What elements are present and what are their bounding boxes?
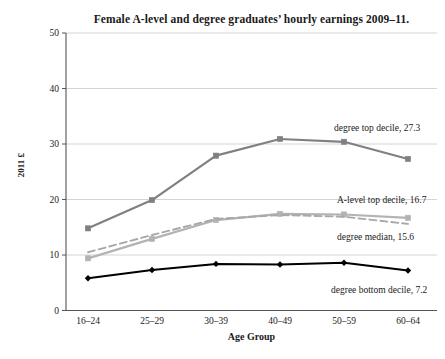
series-annotations: degree top decile, 27.3A-level top decil… [331,123,428,295]
data-point-marker [341,260,347,266]
series-end-label: degree bottom decile, 7.2 [331,285,428,295]
series-end-label: A-level top decile, 16.7 [337,195,427,205]
data-point-marker [341,139,346,144]
series-end-label: degree top decile, 27.3 [334,123,421,133]
data-point-marker [149,267,155,273]
y-axis-ticks: 01020304050 [50,28,67,316]
data-point-marker [85,256,90,261]
y-tick-label: 0 [54,306,59,316]
x-tick-label: 60–64 [396,316,420,326]
y-tick-label: 50 [50,28,60,38]
chart-figure: Female A-level and degree graduates’ hou… [0,0,445,359]
data-point-marker [277,261,283,267]
data-point-marker [405,156,410,161]
data-series-group [85,136,411,281]
data-point-marker [149,197,154,202]
x-axis-ticks: 16–2425–2930–3940–4950–5960–64 [76,316,420,326]
data-point-marker [85,275,91,281]
data-point-marker [213,153,218,158]
x-tick-label: 50–59 [332,316,356,326]
series-line [88,263,408,279]
series-end-label: degree median, 15.6 [337,232,414,242]
y-tick-label: 10 [50,250,60,260]
data-point-marker [405,267,411,273]
x-tick-label: 30–39 [204,316,228,326]
plot-area: 01020304050 16–2425–2930–3940–4950–5960–… [0,0,445,359]
axis-lines [66,33,437,311]
x-tick-label: 25–29 [140,316,164,326]
data-point-marker [213,261,219,267]
data-point-marker [405,215,410,220]
y-tick-label: 20 [50,195,60,205]
data-point-marker [149,236,154,241]
data-point-marker [277,136,282,141]
y-tick-label: 40 [50,84,60,94]
data-point-marker [85,226,90,231]
x-tick-label: 16–24 [76,316,100,326]
x-tick-label: 40–49 [268,316,292,326]
y-tick-label: 30 [50,139,60,149]
